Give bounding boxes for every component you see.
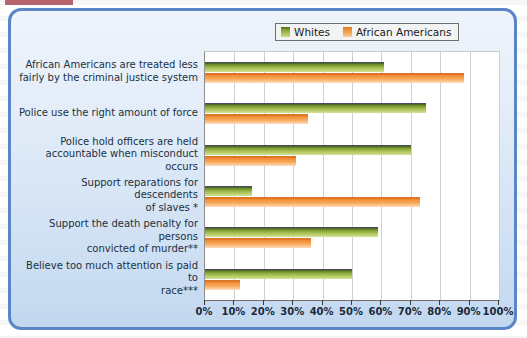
legend-label-whites: Whites	[294, 26, 330, 38]
x-tick-40	[322, 300, 323, 305]
chart-legend: Whites African Americans	[275, 23, 459, 41]
bar-group-5	[205, 259, 499, 300]
bar-5-african-americans	[205, 280, 240, 290]
red-highlight-marker	[5, 0, 73, 5]
category-label-2: Police hold officers are held accountabl…	[17, 134, 202, 175]
bar-group-2	[205, 135, 499, 176]
category-label-4-line-0: Support the death penalty for persons	[49, 218, 198, 242]
bar-groups	[205, 52, 499, 300]
bar-1-african-americans	[205, 114, 308, 124]
x-tick-label-40: 40%	[310, 306, 334, 317]
bar-group-4	[205, 217, 499, 258]
x-tick-label-100: 100%	[483, 306, 514, 317]
category-label-0: African Americans are treated less fairl…	[17, 51, 202, 92]
x-tick-100	[498, 300, 499, 305]
x-tick-label-10: 10%	[221, 306, 245, 317]
x-tick-label-50: 50%	[339, 306, 363, 317]
category-label-4-line-1: convicted of murder**	[87, 243, 198, 254]
bar-0-whites	[205, 62, 384, 72]
x-tick-label-0: 0%	[196, 306, 213, 317]
plot-area	[204, 51, 500, 301]
x-tick-30	[292, 300, 293, 305]
category-label-5-line-1: race***	[161, 285, 198, 296]
bar-0-african-americans	[205, 73, 464, 83]
x-tick-label-70: 70%	[398, 306, 422, 317]
category-label-3-line-1: of slaves *	[146, 202, 198, 213]
x-tick-70	[410, 300, 411, 305]
x-tick-20	[263, 300, 264, 305]
x-tick-80	[439, 300, 440, 305]
x-tick-label-60: 60%	[368, 306, 392, 317]
bar-4-whites	[205, 227, 378, 237]
x-tick-10	[233, 300, 234, 305]
category-label-2-line-1: accountable when misconduct occurs	[46, 148, 198, 172]
legend-item-african-americans: African Americans	[343, 26, 451, 38]
bar-2-whites	[205, 145, 411, 155]
legend-swatch-icon-whites	[281, 27, 290, 37]
bar-1-whites	[205, 103, 426, 113]
bar-5-whites	[205, 269, 352, 279]
legend-item-whites: Whites	[281, 26, 330, 38]
chart-figure-frame: Whites African Americans African America…	[8, 8, 517, 330]
x-tick-0	[204, 300, 205, 305]
bar-3-african-americans	[205, 197, 420, 207]
bar-group-0	[205, 52, 499, 93]
category-label-0-line-1: fairly by the criminal justice system	[19, 72, 198, 83]
category-label-1-line-0: Police use the right amount of force	[19, 107, 198, 118]
x-tick-60	[380, 300, 381, 305]
category-label-1: Police use the right amount of force	[17, 92, 202, 133]
category-label-0-line-0: African Americans are treated less	[26, 59, 198, 70]
category-axis-labels: African Americans are treated less fairl…	[17, 51, 202, 299]
category-label-4: Support the death penalty for persons co…	[17, 216, 202, 257]
x-axis-ticks	[204, 300, 500, 305]
bar-group-1	[205, 93, 499, 134]
x-tick-label-80: 80%	[427, 306, 451, 317]
category-label-2-line-0: Police hold officers are held	[60, 136, 198, 147]
bar-2-african-americans	[205, 156, 296, 166]
x-tick-label-30: 30%	[280, 306, 304, 317]
bar-4-african-americans	[205, 238, 311, 248]
category-label-3: Support reparations for descendents of s…	[17, 175, 202, 216]
x-tick-90	[469, 300, 470, 305]
category-label-5: Believe too much attention is paid to ra…	[17, 258, 202, 299]
legend-label-african-americans: African Americans	[356, 26, 451, 38]
x-tick-label-20: 20%	[251, 306, 275, 317]
bar-3-whites	[205, 186, 252, 196]
x-tick-label-90: 90%	[457, 306, 481, 317]
legend-swatch-icon-african-americans	[343, 27, 352, 37]
bar-group-3	[205, 176, 499, 217]
x-tick-50	[351, 300, 352, 305]
x-axis-tick-labels: 0%10%20%30%40%50%60%70%80%90%100%	[171, 306, 517, 322]
category-label-5-line-0: Believe too much attention is paid to	[26, 260, 198, 284]
gridline-100	[499, 52, 500, 300]
category-label-3-line-0: Support reparations for descendents	[81, 177, 198, 201]
